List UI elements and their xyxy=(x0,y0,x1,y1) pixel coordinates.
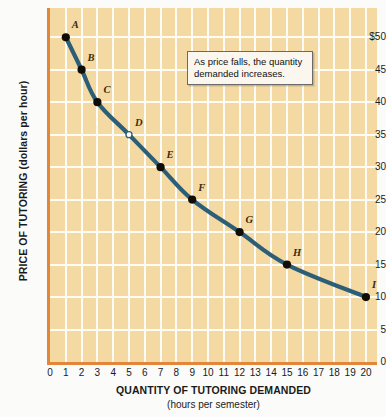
y-axis-tick: 40 xyxy=(342,97,386,107)
y-axis-line xyxy=(47,8,50,365)
y-axis-tick: 35 xyxy=(342,130,386,140)
y-axis-tick: $50 xyxy=(342,32,386,42)
y-axis-title: PRICE OF TUTORING (dollars per hour) xyxy=(17,66,29,296)
y-axis-tick: 20 xyxy=(342,227,386,237)
gridline-horizontal xyxy=(50,36,377,38)
y-axis-tick: 25 xyxy=(342,195,386,205)
y-axis-tick: 15 xyxy=(342,260,386,270)
gridline-horizontal xyxy=(50,329,377,331)
x-axis-subtitle: (hours per semester) xyxy=(50,399,377,410)
gridline-vertical xyxy=(333,8,335,362)
data-point-label-d: D xyxy=(135,118,143,128)
gridline-vertical xyxy=(81,8,83,362)
gridline-vertical xyxy=(65,8,67,362)
y-axis-tick: 30 xyxy=(342,162,386,172)
gridline-horizontal xyxy=(50,166,377,168)
y-axis-tick: 5 xyxy=(342,325,386,335)
gridline-horizontal xyxy=(50,101,377,103)
gridline-vertical xyxy=(112,8,114,362)
annotation-text: As price falls, the quantity demanded in… xyxy=(194,56,302,79)
gridline-horizontal xyxy=(50,134,377,136)
x-axis-title: QUANTITY OF TUTORING DEMANDED xyxy=(50,384,377,396)
y-axis-tick: 10 xyxy=(342,292,386,302)
gridline-horizontal xyxy=(50,231,377,233)
annotation-callout: As price falls, the quantity demanded in… xyxy=(187,51,313,85)
gridline-vertical xyxy=(349,8,351,362)
gridline-horizontal xyxy=(50,264,377,266)
gridline-vertical xyxy=(160,8,162,362)
gridline-vertical xyxy=(365,8,367,362)
gridline-vertical xyxy=(175,8,177,362)
data-point-label-h: H xyxy=(293,248,301,258)
data-point-label-e: E xyxy=(167,150,174,160)
data-point-label-f: F xyxy=(198,183,205,193)
x-axis-tick: 20 xyxy=(355,368,377,378)
y-axis-tick: 0 xyxy=(342,357,386,367)
data-point-label-a: A xyxy=(72,20,79,30)
demand-curve-figure: 051015202530354045$50 012345678910111213… xyxy=(0,0,386,417)
y-axis-tick: 45 xyxy=(342,65,386,75)
gridline-vertical xyxy=(128,8,130,362)
data-point-label-g: G xyxy=(246,215,254,225)
gridline-horizontal xyxy=(50,296,377,298)
gridline-vertical xyxy=(318,8,320,362)
gridline-vertical xyxy=(96,8,98,362)
data-point-label-c: C xyxy=(103,85,110,95)
data-point-label-i: I xyxy=(372,280,376,290)
data-point-label-b: B xyxy=(88,53,95,63)
gridline-horizontal xyxy=(50,199,377,201)
gridline-vertical xyxy=(144,8,146,362)
x-axis-line xyxy=(47,362,377,365)
